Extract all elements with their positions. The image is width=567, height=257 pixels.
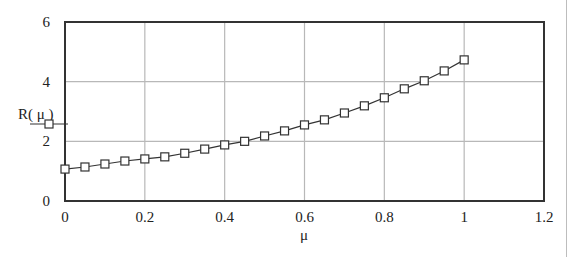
data-point-marker xyxy=(221,141,229,149)
data-series xyxy=(61,56,468,173)
data-point-marker xyxy=(121,157,129,165)
data-point-marker xyxy=(380,94,388,102)
y-tick-label: 6 xyxy=(43,14,51,30)
legend-square-icon xyxy=(45,120,53,128)
x-tick-label: 0.8 xyxy=(375,209,394,225)
data-point-marker xyxy=(320,116,328,124)
x-tick-label: 1.2 xyxy=(535,209,554,225)
x-tick-label: 0 xyxy=(61,209,69,225)
data-point-marker xyxy=(141,155,149,163)
line-chart: 00.20.40.60.811.2 0246 R( μ ) μ xyxy=(0,0,567,257)
data-point-marker xyxy=(400,85,408,93)
data-point-marker xyxy=(440,67,448,75)
x-axis-ticks: 00.20.40.60.811.2 xyxy=(61,209,553,225)
data-point-marker xyxy=(61,165,69,173)
data-point-marker xyxy=(241,137,249,145)
x-tick-label: 0.2 xyxy=(135,209,154,225)
y-tick-label: 4 xyxy=(43,74,51,90)
y-tick-label: 0 xyxy=(43,193,51,209)
y-tick-label: 2 xyxy=(43,133,51,149)
x-axis-label: μ xyxy=(300,227,308,243)
data-point-marker xyxy=(281,127,289,135)
data-point-marker xyxy=(161,153,169,161)
x-tick-label: 1 xyxy=(460,209,468,225)
series-line xyxy=(65,60,464,169)
data-point-marker xyxy=(340,109,348,117)
data-point-marker xyxy=(181,149,189,157)
data-point-marker xyxy=(81,163,89,171)
data-point-marker xyxy=(360,102,368,110)
x-tick-label: 0.4 xyxy=(215,209,234,225)
data-point-marker xyxy=(261,132,269,140)
data-point-marker xyxy=(201,145,209,153)
data-point-marker xyxy=(101,160,109,168)
data-point-marker xyxy=(420,77,428,85)
data-point-marker xyxy=(460,56,468,64)
grid-lines xyxy=(65,22,544,201)
data-point-marker xyxy=(301,121,309,129)
x-tick-label: 0.6 xyxy=(295,209,314,225)
